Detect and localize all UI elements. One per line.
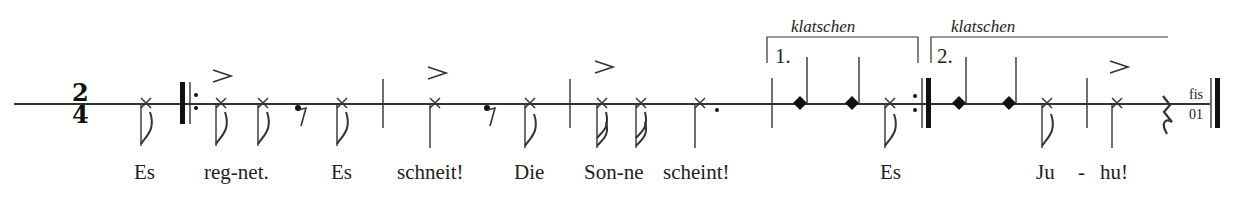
x-notehead-icon	[141, 98, 151, 108]
volta-1-instruction: klatschen	[791, 17, 855, 37]
lyric: Son-ne	[584, 160, 644, 185]
lyric: -	[1078, 160, 1085, 185]
lyric: schneit!	[397, 160, 463, 185]
end-label-top: fis	[1189, 87, 1203, 103]
lyric: Es	[331, 160, 352, 185]
lyric: scheint!	[663, 160, 729, 185]
volta-2-number: 2.	[937, 44, 953, 69]
volta-1-number: 1.	[775, 44, 791, 69]
repeat-start-thick-bar	[180, 82, 185, 124]
lyric: Es	[134, 160, 155, 185]
volta-2-instruction: klatschen	[951, 17, 1015, 37]
end-label-bottom: 01	[1189, 107, 1203, 123]
lyric: reg-net.	[204, 160, 269, 185]
lyric: Ju	[1036, 160, 1055, 185]
lyric: Es	[880, 160, 901, 185]
lyric: hu!	[1100, 160, 1128, 185]
lyric: Die	[514, 160, 544, 185]
quarter-rest-icon	[1163, 96, 1172, 134]
diamond-notehead	[793, 96, 807, 110]
